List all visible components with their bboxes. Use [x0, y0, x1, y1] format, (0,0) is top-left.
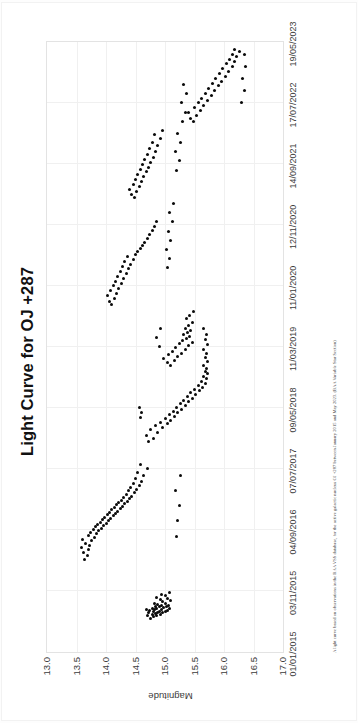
data-point [149, 428, 152, 431]
data-point [192, 310, 195, 313]
data-point [143, 158, 146, 161]
data-point [178, 504, 181, 507]
x-axis-tick-label: 12/11/2020 [288, 205, 298, 249]
data-point [141, 163, 144, 166]
data-point [197, 384, 200, 387]
x-axis-tick-label: 11/03/2019 [288, 327, 298, 371]
data-point [204, 92, 207, 95]
x-axis: 01/01/201503/11/201504/09/201607/07/2017… [286, 41, 348, 653]
data-point [173, 415, 176, 418]
data-point [89, 531, 92, 534]
data-point [179, 141, 182, 144]
y-axis-tick-label: 14.5 [129, 657, 140, 711]
data-point [182, 399, 185, 402]
data-point [204, 370, 207, 373]
data-point [201, 386, 204, 389]
x-axis-tick-label: 04/09/2016 [288, 509, 298, 554]
data-point [127, 489, 130, 492]
data-point [202, 327, 205, 330]
data-point [235, 55, 238, 58]
data-point [173, 359, 176, 362]
gridline-horizontal [136, 42, 137, 652]
data-point [224, 75, 227, 78]
data-point [140, 180, 143, 183]
data-point [153, 133, 156, 136]
data-point [129, 486, 132, 489]
data-point [147, 440, 150, 443]
gridline-vertical [47, 590, 283, 591]
data-point [100, 527, 103, 530]
data-point [211, 82, 214, 85]
data-point [241, 77, 244, 80]
data-point [146, 237, 149, 240]
data-point [86, 554, 89, 557]
data-point [228, 58, 231, 61]
data-point [175, 535, 178, 538]
data-point [180, 352, 183, 355]
data-point [205, 333, 208, 336]
data-point [225, 62, 228, 65]
data-point [191, 321, 194, 324]
data-point [141, 244, 144, 247]
data-point [174, 346, 177, 349]
data-point [87, 534, 90, 537]
data-point [166, 422, 169, 425]
data-point [136, 173, 139, 176]
data-point [165, 248, 168, 251]
data-point [160, 593, 163, 596]
data-point [136, 471, 139, 474]
rotated-figure-wrapper: Light Curve for OJ +287 Magnitude 13.013… [0, 0, 358, 723]
data-point [179, 474, 182, 477]
x-axis-tick-label: 11/01/2020 [288, 266, 298, 310]
data-point [80, 546, 83, 549]
data-point [122, 277, 125, 280]
page-shell: Light Curve for OJ +287 Magnitude 13.013… [0, 0, 358, 723]
data-point [178, 159, 181, 162]
data-point [120, 499, 123, 502]
data-point [180, 408, 183, 411]
data-point [171, 350, 174, 353]
data-point [161, 129, 164, 132]
data-point [151, 607, 154, 610]
data-point [210, 94, 213, 97]
data-point [204, 382, 207, 385]
data-point [158, 346, 161, 349]
data-point [145, 434, 148, 437]
data-point [206, 372, 209, 375]
data-point [147, 166, 150, 169]
gridline-horizontal [254, 42, 255, 652]
data-point [139, 168, 142, 171]
data-point [172, 410, 175, 413]
data-point [220, 80, 223, 83]
data-point [243, 53, 246, 56]
data-point [175, 406, 178, 409]
data-point [182, 83, 185, 86]
data-point [132, 258, 135, 261]
data-point [130, 495, 133, 498]
data-point [121, 265, 124, 268]
data-point [167, 353, 170, 356]
data-point [140, 480, 143, 483]
data-point [171, 220, 174, 223]
data-point [185, 317, 188, 320]
data-point [139, 247, 142, 250]
data-point [184, 327, 187, 330]
data-point [84, 542, 87, 545]
data-point [113, 297, 116, 300]
data-point [145, 608, 148, 611]
data-point [116, 510, 119, 513]
data-point [127, 267, 130, 270]
data-point [161, 426, 164, 429]
data-point [159, 598, 162, 601]
data-point [92, 528, 95, 531]
data-point [145, 170, 148, 173]
gridline-vertical [47, 224, 283, 225]
data-point [184, 111, 187, 114]
data-point [152, 156, 155, 159]
x-axis-tick-label: 17/07/2022 [288, 82, 298, 127]
data-point [151, 229, 154, 232]
x-axis-tick-label: 14/09/2021 [288, 143, 298, 188]
data-point [152, 437, 155, 440]
data-point [114, 280, 117, 283]
data-point [139, 416, 142, 419]
